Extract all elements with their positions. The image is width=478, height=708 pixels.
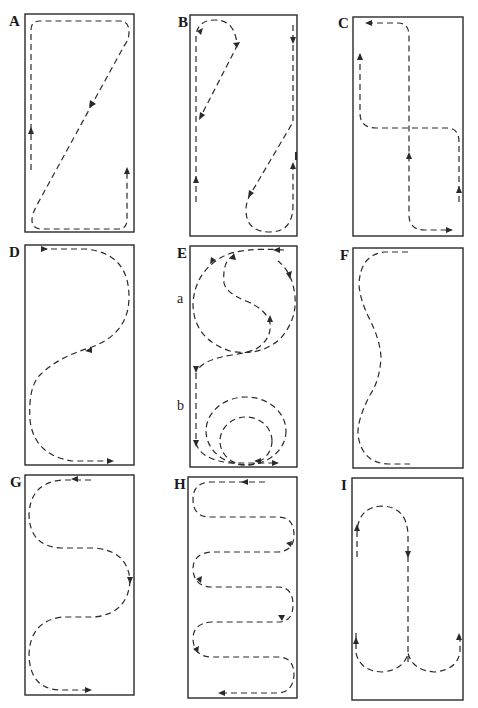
panel-f: F — [320, 235, 478, 470]
arrow-up-icon — [456, 186, 462, 193]
arrow-down-left-icon — [89, 100, 96, 108]
pattern-g-diagram — [0, 465, 160, 708]
arrow-up-icon — [353, 637, 359, 644]
pattern-h-diagram — [160, 465, 320, 708]
arrow-up-icon — [290, 162, 296, 169]
arrow-left-icon — [273, 247, 280, 253]
arrow-left-icon — [218, 690, 225, 696]
pattern-d-diagram — [0, 235, 160, 470]
arrow-left-icon — [365, 20, 372, 26]
arrow-down-left-icon — [248, 190, 254, 198]
panel-g: G — [0, 465, 160, 708]
pattern-b-diagram — [160, 0, 320, 240]
pattern-i-diagram — [320, 465, 478, 708]
arrow-down-icon — [286, 541, 292, 547]
arrow-up-icon — [357, 53, 363, 60]
arrow-down-icon — [193, 440, 199, 447]
panel-e: E a b — [160, 235, 320, 470]
arrow-down-icon — [233, 42, 240, 48]
arrow-right-icon — [41, 246, 48, 252]
panel-d: D — [0, 235, 160, 470]
arrow-up-icon — [267, 315, 273, 322]
arrow-down-icon — [290, 37, 296, 44]
arrow-up-icon — [28, 127, 34, 134]
arrow-down-icon — [127, 577, 133, 584]
arrow-right-icon — [446, 227, 453, 233]
arrow-right-icon — [107, 458, 114, 464]
arrow-down-icon — [278, 615, 285, 621]
arrow-up-icon — [124, 167, 130, 174]
arrow-right-icon — [85, 687, 92, 693]
panel-i: I — [320, 465, 478, 708]
arrow-left-icon — [241, 479, 248, 485]
pattern-e-diagram — [160, 235, 320, 470]
arrow-down-icon — [193, 646, 199, 653]
arrow-down-left-icon — [199, 112, 205, 120]
arrow-up-icon — [456, 633, 462, 640]
panel-b: B — [160, 0, 320, 235]
arrow-down-icon — [193, 366, 199, 373]
arrow-up-icon — [193, 176, 199, 183]
arrow-left-icon — [71, 476, 78, 482]
arrow-down-icon — [405, 551, 411, 558]
arrow-up-icon — [354, 524, 360, 531]
panel-a: A — [0, 0, 160, 235]
arrow-down-left-icon — [85, 347, 92, 353]
arrow-up-icon — [406, 152, 412, 159]
panel-h: H — [160, 465, 320, 708]
pattern-f-diagram — [320, 235, 478, 470]
pattern-a-diagram — [0, 0, 160, 235]
panel-c: C — [320, 0, 478, 240]
pattern-c-diagram — [320, 0, 478, 240]
arrow-left-icon — [254, 458, 261, 464]
